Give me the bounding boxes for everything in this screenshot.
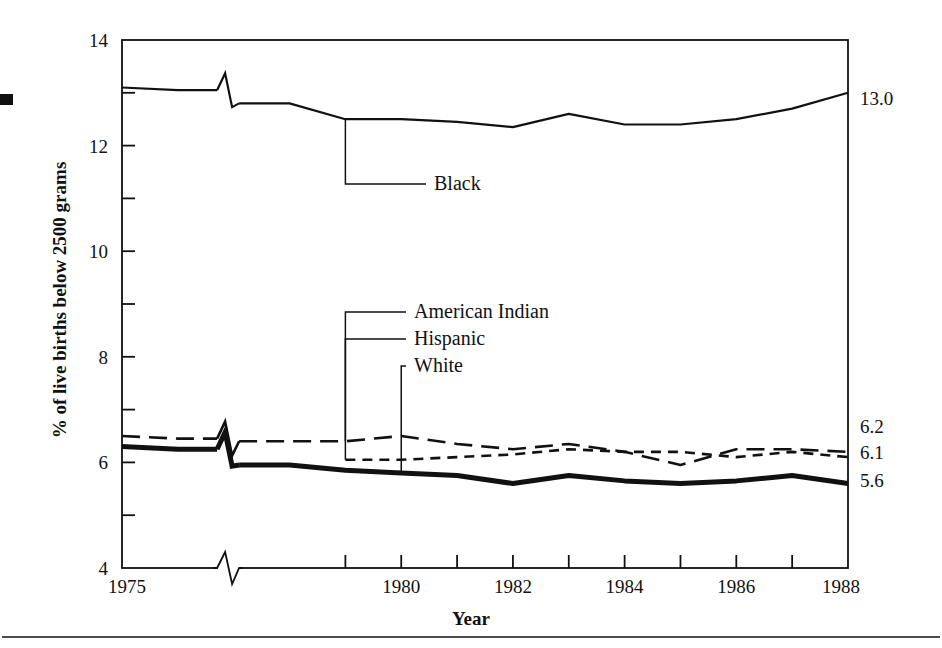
x-tick-label: 1982 (494, 576, 532, 597)
series-callout-layer: BlackAmerican IndianHispanicWhite (345, 119, 549, 473)
series-segment (122, 447, 217, 450)
callout-label: Black (434, 172, 481, 194)
end-value-label: 6.2 (860, 416, 884, 437)
end-value-label: 5.6 (860, 470, 884, 491)
y-tick-label: 6 (99, 452, 109, 473)
y-tick-label: 12 (89, 136, 108, 157)
callout-white: White (401, 354, 463, 473)
series-segment (122, 88, 217, 91)
x-axis-title: Year (452, 608, 491, 629)
end-value-labels: 13.06.26.15.6 (860, 88, 893, 491)
y-tick-label: 10 (89, 241, 108, 262)
x-axis-tick-labels: 197519801982198419861988 (108, 576, 860, 597)
figure-root: 468101214 197519801982198419861988 Black… (0, 0, 942, 648)
end-value-label: 13.0 (860, 88, 893, 109)
x-tick-label: 1975 (108, 576, 146, 597)
x-tick-label: 1984 (606, 576, 645, 597)
callout-leader-line (345, 312, 406, 441)
y-tick-label: 14 (89, 30, 109, 51)
callout-leader-line (401, 366, 406, 473)
data-series-layer (122, 73, 848, 483)
series-break-zigzag (217, 73, 239, 107)
y-tick-label: 8 (99, 347, 109, 368)
series-segment (239, 436, 848, 465)
callout-label: American Indian (414, 300, 549, 322)
callout-black: Black (345, 119, 480, 194)
bullet-marker-icon (0, 94, 13, 105)
y-axis-title: % of live births below 2500 grams (49, 162, 70, 439)
callout-label: White (414, 354, 463, 376)
series-segment (122, 436, 217, 439)
series-segment (239, 465, 848, 483)
x-axis-ticks (345, 555, 792, 568)
x-axis-break-zigzag (213, 552, 243, 584)
callout-label: Hispanic (414, 327, 485, 350)
callout-leader-line (345, 119, 426, 184)
x-tick-label: 1988 (822, 576, 860, 597)
callout-hispanic: Hispanic (345, 327, 485, 460)
y-axis-ticks (122, 93, 135, 515)
x-tick-label: 1986 (717, 576, 755, 597)
series-black (122, 73, 848, 127)
series-hispanic (345, 449, 848, 460)
chart-canvas: 468101214 197519801982198419861988 Black… (0, 0, 942, 648)
end-value-label: 6.1 (860, 442, 884, 463)
series-segment (345, 449, 848, 460)
y-axis-tick-labels: 468101214 (89, 30, 109, 579)
y-tick-label: 4 (99, 558, 109, 579)
x-tick-label: 1980 (382, 576, 420, 597)
series-segment (239, 93, 848, 127)
